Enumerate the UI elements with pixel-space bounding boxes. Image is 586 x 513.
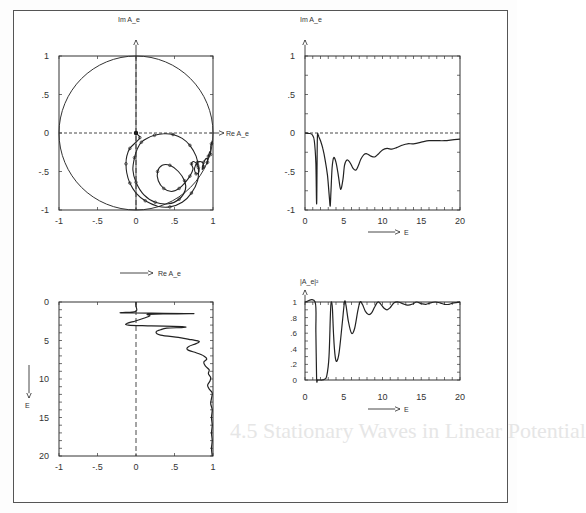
y-tick-label: -1 [41,205,49,215]
imaginary-part-plot: 05101520-1-.50.51 [284,51,465,226]
real-xlabel: Re A_e [158,270,181,278]
x-tick-label: -.5 [92,216,103,226]
prob-curve [305,300,460,383]
y-tick-label: .5 [41,90,49,100]
x-tick-label: 0 [302,216,307,226]
y-tick-label: -1 [287,205,295,215]
x-tick-label: 20 [455,216,465,226]
argand-curve [126,133,212,207]
x-tick-label: .5 [171,216,179,226]
y-tick-label: .4 [290,345,297,354]
x-tick-label: .5 [171,462,179,472]
y-tick-label: 0 [293,376,298,385]
real-curve [120,302,212,456]
prob-ylabel: |A_e|² [300,278,319,286]
y-tick-label: 15 [39,413,49,423]
y-tick-label: 1 [44,51,49,61]
y-tick-label: 0 [44,297,49,307]
y-tick-label: .5 [287,90,295,100]
probability-plot: 051015200.2.4.6.81 [290,298,465,402]
x-tick-label: 5 [341,392,346,402]
y-tick-label: .8 [290,314,297,323]
argand-ylabel: Im A_e [118,16,140,24]
x-tick-label: 1 [210,462,215,472]
y-tick-label: 1 [290,51,295,61]
y-tick-label: 0 [290,128,295,138]
x-tick-label: 15 [416,392,426,402]
x-tick-label: 0 [133,462,138,472]
y-tick-label: -.5 [284,167,295,177]
y-tick-label: .6 [290,329,297,338]
x-tick-label: 10 [377,392,387,402]
x-tick-label: 1 [210,216,215,226]
y-tick-label: 1 [293,298,298,307]
y-tick-label: .2 [290,360,297,369]
x-tick-label: 15 [416,216,426,226]
y-tick-label: 20 [39,451,49,461]
x-tick-label: -.5 [92,462,103,472]
y-tick-label: 10 [39,374,49,384]
argand-diagram-panel: -1-.50.51-1-.50.51 [38,51,215,226]
real-ylabel: E [25,402,30,409]
y-tick-label: -.5 [38,167,49,177]
x-tick-label: 20 [455,392,465,402]
y-tick-label: 0 [44,128,49,138]
imag-curve [305,133,460,206]
imag-xlabel: E [404,229,409,236]
x-tick-label: -1 [55,216,63,226]
y-tick-label: 5 [44,336,49,346]
x-tick-label: 0 [302,392,307,402]
x-tick-label: 5 [341,216,346,226]
x-tick-label: -1 [55,462,63,472]
x-tick-label: 0 [133,216,138,226]
argand-xlabel: Re A_e [226,130,249,138]
real-part-plot: -1-.50.5105101520 [39,297,216,472]
imag-ylabel: Im A_e [300,16,322,24]
x-tick-label: 10 [377,216,387,226]
prob-xlabel: E [404,406,409,413]
